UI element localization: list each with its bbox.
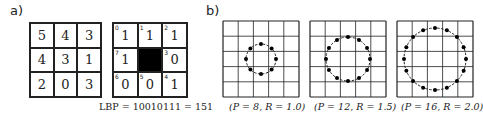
binary-value: 0 <box>146 77 154 92</box>
binary-value: 0 <box>121 77 129 92</box>
caption-p8: (P = 8, R = 1.0) <box>229 101 305 112</box>
panel-a-label: a) <box>10 3 23 18</box>
sample-point <box>411 35 415 39</box>
binary-value: 1 <box>171 77 179 92</box>
sample-point <box>259 42 263 46</box>
sample-point <box>327 68 331 72</box>
neighborhood-grid-p16 <box>396 20 474 98</box>
binary-grid: 01 11 21 71 30 60 50 41 <box>112 22 188 98</box>
sample-point <box>259 72 263 76</box>
sample-point <box>327 46 331 50</box>
panel-b-label: b) <box>206 3 219 18</box>
sample-point <box>357 38 361 42</box>
neighbor-index: 3 <box>164 49 168 56</box>
sample-point <box>335 76 339 80</box>
intensity-cell: 3 <box>77 23 101 48</box>
binary-cell: 11 <box>138 23 163 48</box>
neighborhood-grid-p8 <box>222 20 300 98</box>
binary-cell: 21 <box>162 23 187 48</box>
sample-point <box>346 79 350 83</box>
sample-point <box>455 79 459 83</box>
sample-point <box>244 57 248 61</box>
sample-point <box>274 57 278 61</box>
sample-point <box>368 57 372 61</box>
binary-value: 1 <box>146 28 154 43</box>
intensity-cell: 3 <box>77 72 101 97</box>
intensity-cell: 5 <box>30 23 54 48</box>
neighbor-index: 0 <box>115 24 119 31</box>
binary-cell: 41 <box>162 72 187 97</box>
binary-value: 1 <box>121 52 129 67</box>
sample-point <box>270 46 274 50</box>
caption-p16: (P = 16, R = 2.0) <box>401 101 483 112</box>
center-pixel <box>138 48 163 73</box>
intensity-cell: 3 <box>54 48 78 73</box>
intensity-cell: 4 <box>30 48 54 73</box>
caption-p12: (P = 12, R = 1.5) <box>314 101 396 112</box>
intensity-cell: 0 <box>54 72 78 97</box>
binary-value: 1 <box>121 28 129 43</box>
sample-point <box>462 69 466 73</box>
sample-point <box>335 38 339 42</box>
neighbor-index: 2 <box>164 24 168 31</box>
sample-point <box>445 28 449 32</box>
binary-cell: 71 <box>113 48 138 73</box>
intensity-grid: 5 4 3 4 3 1 2 0 3 <box>29 22 102 98</box>
sample-point <box>421 28 425 32</box>
neighborhood-grid-p12 <box>309 20 387 98</box>
sample-point <box>464 57 468 61</box>
intensity-cell: 2 <box>30 72 54 97</box>
sample-point <box>411 79 415 83</box>
binary-cell: 01 <box>113 23 138 48</box>
sample-point <box>404 45 408 49</box>
sampling-circle <box>326 37 370 81</box>
sample-point <box>445 86 449 90</box>
sample-point <box>346 35 350 39</box>
sample-point <box>365 46 369 50</box>
neighbor-index: 7 <box>115 49 119 56</box>
sample-point <box>433 88 437 92</box>
binary-cell: 50 <box>138 72 163 97</box>
sample-point <box>433 26 437 30</box>
binary-value: 0 <box>171 52 179 67</box>
sample-point <box>365 68 369 72</box>
binary-value: 1 <box>171 28 179 43</box>
sample-point <box>248 46 252 50</box>
binary-cell: 60 <box>113 72 138 97</box>
sample-point <box>270 68 274 72</box>
sample-point <box>404 69 408 73</box>
sample-point <box>455 35 459 39</box>
neighbor-index: 6 <box>115 73 119 80</box>
intensity-cell: 1 <box>77 48 101 73</box>
neighbor-index: 4 <box>164 73 168 80</box>
sample-point <box>357 76 361 80</box>
lbp-caption: LBP = 10010111 = 151 <box>99 101 213 112</box>
sample-point <box>324 57 328 61</box>
intensity-cell: 4 <box>54 23 78 48</box>
sample-point <box>421 86 425 90</box>
neighbor-index: 5 <box>140 73 144 80</box>
neighbor-index: 1 <box>140 24 144 31</box>
sample-point <box>402 57 406 61</box>
sample-point <box>248 68 252 72</box>
binary-cell: 30 <box>162 48 187 73</box>
sample-point <box>462 45 466 49</box>
